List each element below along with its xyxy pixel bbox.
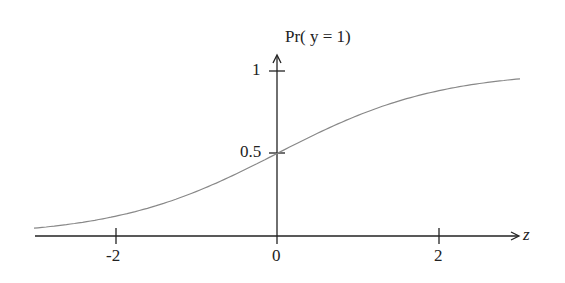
x-tick-label: 0 [272,246,281,266]
y-axis-label: Pr( y = 1) [285,27,351,47]
sigmoid-plot [0,0,565,283]
x-tick-label: -2 [106,246,120,266]
x-tick-label: 2 [434,246,443,266]
y-tick-label: 0.5 [240,142,261,162]
x-axis-label: z [523,225,530,245]
y-tick-label: 1 [252,60,261,80]
